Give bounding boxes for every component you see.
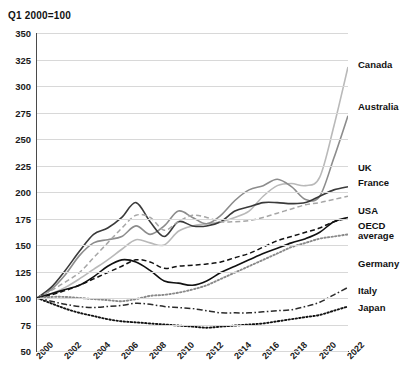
y-axis-tick: 250 [0, 134, 31, 145]
y-axis-tick: 50 [0, 346, 31, 357]
gridline [37, 298, 348, 299]
gridline [37, 325, 348, 326]
price-index-line-chart: Q1 2000=100 3503253002752502252001751501… [0, 0, 417, 386]
gridline [37, 192, 348, 193]
series-label-germany: Germany [358, 259, 399, 269]
series-line-italy [37, 287, 348, 313]
gridline [37, 219, 348, 220]
series-label-japan: Japan [358, 303, 385, 313]
gridline [37, 86, 348, 87]
series-line-japan [37, 298, 348, 328]
y-axis-tick: 75 [0, 319, 31, 330]
series-label-italy: Italy [358, 286, 377, 296]
series-label-canada: Canada [358, 60, 392, 70]
gridline [37, 245, 348, 246]
cropped-title-fragment [8, 0, 208, 2]
y-axis-tick: 350 [0, 28, 31, 39]
y-axis-tick: 225 [0, 160, 31, 171]
y-axis-tick: 150 [0, 240, 31, 251]
gridline [37, 351, 348, 352]
series-label-oecd-line2: average [358, 231, 394, 241]
x-axis-tick: 2022 [345, 340, 366, 361]
series-label-uk: UK [358, 163, 372, 173]
y-axis-tick: 125 [0, 266, 31, 277]
gridline [37, 166, 348, 167]
y-axis-tick: 275 [0, 107, 31, 118]
chart-subtitle: Q1 2000=100 [8, 10, 71, 21]
gridline [37, 272, 348, 273]
y-axis-tick: 325 [0, 54, 31, 65]
series-label-australia: Australia [358, 102, 399, 112]
gridline [37, 60, 348, 61]
y-axis-tick: 200 [0, 187, 31, 198]
gridline [37, 113, 348, 114]
y-axis-tick: 100 [0, 293, 31, 304]
y-axis-tick: 300 [0, 81, 31, 92]
gridline [37, 33, 348, 34]
plot-area [37, 33, 348, 351]
series-line-usa [37, 217, 348, 298]
series-line-canada [37, 67, 348, 298]
y-axis-tick: 175 [0, 213, 31, 224]
series-label-usa: USA [358, 206, 378, 216]
gridline [37, 139, 348, 140]
series-label-france: France [358, 178, 389, 188]
series-line-uk [37, 187, 348, 298]
